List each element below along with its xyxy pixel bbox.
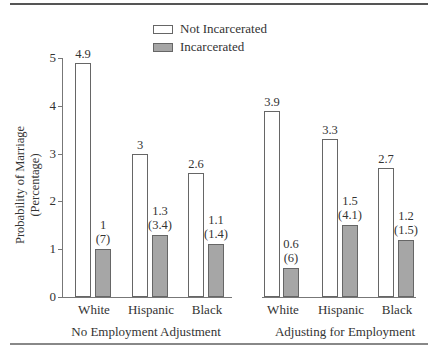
value-label: 3: [120, 138, 160, 152]
legend-swatch-gray: [153, 43, 173, 52]
legend-label: Not Incarcerated: [180, 21, 267, 37]
category-label: Hispanic: [311, 302, 371, 318]
value-label: 4.9: [63, 47, 103, 61]
group-label: No Employment Adjustment: [46, 324, 246, 340]
value-label: 1.3(3.4): [140, 204, 180, 232]
y-tick-label: 3: [44, 146, 56, 162]
y-tick-label: 2: [44, 193, 56, 209]
bar-incarcerated: [342, 225, 358, 297]
bottom-rule: [10, 343, 428, 345]
y-tick-label: 5: [44, 50, 56, 66]
value-label: 1(7): [83, 218, 123, 246]
legend-item-not-incarcerated: Not Incarcerated: [153, 20, 267, 38]
y-axis: [62, 58, 63, 298]
value-label: 3.3: [310, 123, 350, 137]
bar-incarcerated: [283, 268, 299, 297]
value-label: 1.1(1.4): [196, 213, 236, 241]
legend-item-incarcerated: Incarcerated: [153, 38, 267, 56]
top-rule: [10, 3, 428, 5]
y-tick-label: 4: [44, 98, 56, 114]
bar-incarcerated: [208, 244, 224, 297]
category-label: White: [253, 302, 313, 318]
y-tick: [58, 106, 62, 107]
value-label: 0.6(6): [271, 237, 311, 265]
value-label: 2.7: [366, 152, 406, 166]
y-tick: [58, 201, 62, 202]
bar-incarcerated: [152, 235, 168, 297]
legend-swatch-white: [153, 25, 173, 34]
bar-incarcerated: [398, 240, 414, 297]
category-label: White: [64, 302, 124, 318]
y-tick-label: 1: [44, 241, 56, 257]
value-label: 1.5(4.1): [330, 194, 370, 222]
y-tick: [58, 58, 62, 59]
y-axis-label: Probability of Marriage (Percentage): [13, 95, 43, 275]
y-tick: [58, 249, 62, 250]
category-label: Hispanic: [121, 302, 181, 318]
bar-not-incarcerated: [264, 111, 280, 297]
legend-label: Incarcerated: [180, 39, 244, 55]
bar-incarcerated: [95, 249, 111, 297]
group-label: Adjusting for Employment: [245, 324, 435, 340]
x-baseline: [262, 297, 416, 298]
value-label: 3.9: [252, 95, 292, 109]
x-baseline: [62, 297, 232, 298]
y-tick-label: 0: [44, 289, 56, 305]
value-label: 1.2(1.5): [386, 209, 426, 237]
legend: Not Incarcerated Incarcerated: [153, 20, 267, 56]
category-label: Black: [367, 302, 427, 318]
category-label: Black: [177, 302, 237, 318]
y-tick: [58, 154, 62, 155]
value-label: 2.6: [176, 157, 216, 171]
bar-not-incarcerated: [75, 63, 91, 297]
